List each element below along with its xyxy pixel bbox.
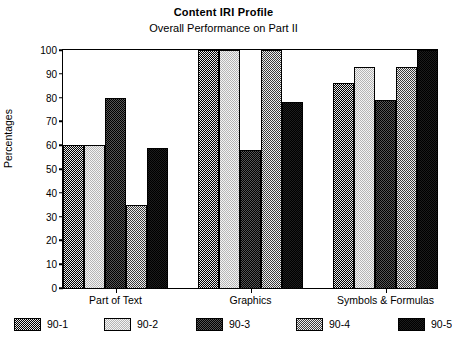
bar-90-2-symbols-formulas [354, 67, 375, 288]
bar-90-5-graphics [282, 102, 303, 288]
y-axis-label: Percentages [2, 109, 14, 168]
bar-groups [63, 50, 438, 288]
x-axis-tick-mark [251, 288, 253, 293]
legend-swatch-icon [296, 318, 323, 331]
bar-group [198, 50, 303, 288]
legend-label: 90-1 [47, 318, 68, 330]
bar-90-4-part-of-text [126, 205, 147, 288]
legend-label: 90-3 [229, 318, 250, 330]
bar-90-2-part-of-text [84, 145, 105, 288]
bar-90-5-symbols-formulas [417, 50, 438, 288]
group-gap [168, 50, 198, 288]
legend-swatch-icon [14, 318, 41, 331]
plot-area: 0102030405060708090100 Part of TextGraph… [62, 49, 438, 289]
group-gap [303, 50, 333, 288]
x-axis-category-label: Symbols & Formulas [337, 294, 434, 306]
bar-90-1-graphics [198, 50, 219, 288]
bar-group [333, 50, 438, 288]
legend-swatch-icon [196, 318, 223, 331]
legend-swatch-icon [104, 318, 131, 331]
legend-label: 90-2 [137, 318, 158, 330]
x-axis-category-label: Graphics [229, 294, 271, 306]
legend-label: 90-5 [431, 318, 452, 330]
bar-90-1-part-of-text [63, 145, 84, 288]
legend-item-90-4[interactable]: 90-4 [296, 316, 350, 332]
legend-item-90-1[interactable]: 90-1 [14, 316, 68, 332]
chart-title: Content IRI Profile [0, 6, 447, 18]
bar-90-3-symbols-formulas [375, 100, 396, 288]
bar-90-3-part-of-text [105, 98, 126, 288]
chart-subtitle: Overall Performance on Part II [0, 22, 447, 34]
legend-item-90-2[interactable]: 90-2 [104, 316, 158, 332]
bar-90-5-part-of-text [147, 148, 168, 288]
bar-group [63, 50, 168, 288]
bar-90-4-symbols-formulas [396, 67, 417, 288]
legend-label: 90-4 [329, 318, 350, 330]
x-axis-category-label: Part of Text [89, 294, 142, 306]
legend-swatch-icon [398, 318, 425, 331]
x-axis-tick-mark [386, 288, 388, 293]
legend-item-90-3[interactable]: 90-3 [196, 316, 250, 332]
bar-90-4-graphics [261, 50, 282, 288]
chart-legend: 90-190-290-390-490-5 [0, 316, 447, 336]
x-axis-tick-mark [116, 288, 118, 293]
bar-90-1-symbols-formulas [333, 83, 354, 288]
legend-item-90-5[interactable]: 90-5 [398, 316, 452, 332]
bar-90-3-graphics [240, 150, 261, 288]
bar-90-2-graphics [219, 50, 240, 288]
